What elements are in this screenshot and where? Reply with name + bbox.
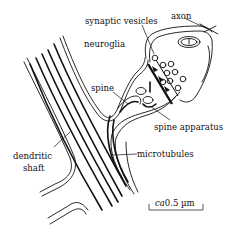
spine-apparatus-cistern-1	[136, 88, 146, 95]
scale-bar-prefix: ca	[155, 198, 165, 208]
label-synaptic-vesicles: synaptic vesicles	[85, 16, 158, 26]
label-dendritic: dendritic	[13, 151, 52, 161]
axon-terminal	[145, 24, 218, 102]
dendritic-spine-diagram: axon synaptic vesicles neuroglia spine s…	[0, 0, 241, 232]
label-microtubules: microtubules	[137, 149, 194, 159]
spine	[118, 82, 156, 112]
scale-bar-value: 0.5 µm	[165, 198, 195, 208]
label-axon: axon	[171, 11, 192, 21]
label-spine-apparatus: spine apparatus	[154, 122, 223, 132]
synaptic-vesicles	[152, 55, 186, 91]
synaptic-cleft	[148, 60, 178, 104]
label-neuroglia: neuroglia	[84, 39, 125, 49]
label-spine: spine	[91, 83, 114, 93]
svg-text:ca0.5 µm: ca0.5 µm	[155, 198, 195, 208]
microtubules	[30, 44, 128, 210]
label-shaft: shaft	[23, 163, 45, 173]
scale-bar: ca0.5 µm	[149, 198, 203, 210]
spine-apparatus-cistern-2	[143, 97, 153, 104]
